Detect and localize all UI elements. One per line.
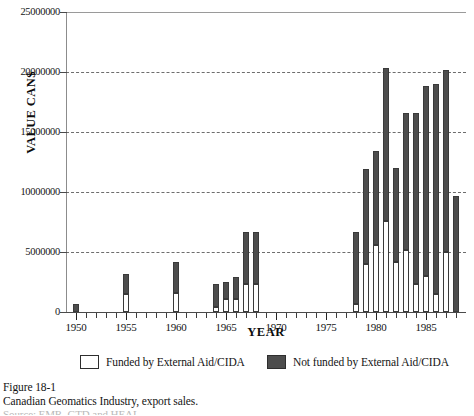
bar-segment-funded-1960 [173,293,179,312]
y-tick-5000000 [60,252,67,253]
x-tick-1952 [96,313,97,318]
x-tick-1985 [426,313,427,320]
x-tick-1969 [266,313,267,318]
bar-segment-funded-1978 [353,304,359,312]
bar-segment-not-funded-1960 [173,262,179,293]
bar-segment-not-funded-1968 [253,232,259,285]
bar-segment-funded-1986 [433,294,439,312]
x-tick-1958 [156,313,157,318]
bar-segment-not-funded-1967 [243,232,249,285]
bar-segment-not-funded-1950 [73,304,79,312]
legend-label-funded: Funded by External Aid/CIDA [106,356,245,368]
bar-segment-funded-1980 [373,245,379,312]
x-tick-1963 [206,313,207,318]
caption-label: Figure 18-1 [3,381,323,395]
x-tick-1975 [326,313,327,320]
y-tick-25000000 [60,12,67,13]
legend-item-not-funded[interactable]: Not funded by External Aid/CIDA [267,355,449,369]
bar-1979 [363,169,369,312]
bar-segment-not-funded-1982 [393,168,399,262]
x-axis-title: YEAR [66,325,466,340]
bar-1981 [383,68,389,312]
x-tick-1980 [376,313,377,320]
x-tick-1984 [416,313,417,318]
x-tick-1986 [436,313,437,318]
bar-1984 [413,113,419,312]
bar-segment-funded-1981 [383,221,389,312]
x-tick-1953 [106,313,107,318]
y-tick-label-5000000: 5000000 [0,246,60,257]
x-tick-1982 [396,313,397,318]
bar-1988 [453,196,459,312]
x-tick-1973 [306,313,307,318]
bar-segment-not-funded-1986 [433,84,439,294]
bar-segment-funded-1987 [443,252,449,312]
x-tick-1967 [246,313,247,318]
bar-1978 [353,232,359,312]
x-tick-1964 [216,313,217,318]
x-tick-1988 [456,313,457,318]
bar-segment-funded-1965 [223,299,229,312]
bar-segment-funded-1984 [413,284,419,312]
bar-1968 [253,232,259,312]
bar-segment-funded-1968 [253,284,259,312]
bar-segment-not-funded-1964 [213,284,219,307]
bar-1960 [173,262,179,312]
bar-segment-not-funded-1978 [353,232,359,304]
x-tick-1976 [336,313,337,318]
bar-1980 [373,151,379,312]
bar-1985 [423,86,429,312]
y-axis-line [66,12,67,313]
x-tick-1959 [166,313,167,318]
bar-segment-not-funded-1966 [233,277,239,299]
plot-frame-top [66,12,466,13]
bar-segment-not-funded-1985 [423,86,429,276]
x-tick-1968 [256,313,257,318]
bar-segment-funded-1964 [213,307,219,312]
bar-segment-funded-1955 [123,294,129,312]
y-tick-0 [60,312,67,313]
caption-text: Canadian Geomatics Industry, export sale… [3,395,323,409]
x-tick-1961 [186,313,187,318]
x-tick-1962 [196,313,197,318]
x-tick-1979 [366,313,367,318]
y-axis-title: VALUE CAN$ [24,38,39,188]
x-tick-1987 [446,313,447,318]
bar-segment-funded-1985 [423,276,429,312]
bar-1950 [73,304,79,312]
x-tick-1954 [116,313,117,318]
x-tick-1965 [226,313,227,320]
bar-segment-not-funded-1987 [443,70,449,252]
y-tick-10000000 [60,192,67,193]
bar-1983 [403,113,409,312]
bar-segment-not-funded-1988 [453,196,459,312]
gridline-20000000 [66,72,466,73]
x-tick-1972 [296,313,297,318]
bar-1987 [443,70,449,312]
y-tick-label-0: 0 [0,306,60,317]
bar-1966 [233,277,239,312]
bar-segment-not-funded-1980 [373,151,379,245]
x-tick-1974 [316,313,317,318]
bar-segment-funded-1966 [233,299,239,312]
bar-segment-funded-1982 [393,262,399,312]
bar-1986 [433,84,439,312]
legend-swatch-not-funded-icon [267,355,286,369]
x-tick-1983 [406,313,407,318]
figure-container: 25000000 20000000 15000000 10000000 5000… [0,0,474,416]
bar-1982 [393,168,399,312]
x-tick-1966 [236,313,237,318]
plot-area: 19501955196019651970197519801985 [66,12,466,313]
y-tick-label-25000000: 25000000 [0,6,60,17]
x-tick-1978 [356,313,357,318]
legend-item-funded[interactable]: Funded by External Aid/CIDA [80,355,245,369]
x-tick-1970 [276,313,277,320]
bar-segment-funded-1979 [363,264,369,312]
y-tick-20000000 [60,72,67,73]
x-tick-1971 [286,313,287,318]
figure-caption: Figure 18-1 Canadian Geomatics Industry,… [3,381,323,415]
bar-segment-not-funded-1983 [403,113,409,250]
bar-segment-not-funded-1979 [363,169,369,264]
legend-swatch-funded-icon [80,355,99,369]
legend: Funded by External Aid/CIDA Not funded b… [66,355,466,377]
